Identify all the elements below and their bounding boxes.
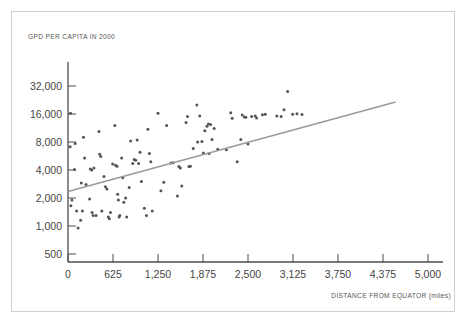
data-point [209, 123, 212, 126]
data-point [180, 184, 183, 187]
data-point [124, 197, 127, 200]
data-point [75, 209, 78, 212]
data-point [95, 214, 98, 217]
data-point [229, 111, 232, 114]
y-tick-label: 2,000 [36, 192, 62, 204]
data-point [213, 127, 216, 130]
data-point [239, 138, 242, 141]
data-point [275, 115, 278, 118]
trend-line [68, 102, 396, 191]
data-point [162, 181, 165, 184]
data-point [186, 115, 189, 118]
data-point [128, 186, 131, 189]
data-point [82, 136, 85, 139]
x-tick-label: 3,750 [325, 268, 351, 280]
data-point [115, 165, 118, 168]
data-point [122, 201, 125, 204]
data-point [192, 147, 195, 150]
data-point [134, 159, 137, 162]
data-point [301, 113, 304, 116]
y-axis-ticks: 5001,0002,0004,0008,00016,00032,000 [30, 80, 76, 260]
data-point [85, 183, 88, 186]
data-point [140, 180, 143, 183]
data-point [80, 181, 83, 184]
data-point [196, 141, 199, 144]
data-point [211, 138, 214, 141]
data-point [203, 129, 206, 132]
data-point [195, 103, 198, 106]
data-point [125, 215, 128, 218]
y-tick-label: 32,000 [30, 80, 62, 92]
data-point [176, 195, 179, 198]
x-tick-label: 4,375 [370, 268, 396, 280]
data-point [146, 128, 149, 131]
y-tick-label: 500 [44, 248, 62, 260]
data-point [236, 160, 239, 163]
data-point [198, 115, 201, 118]
data-point [116, 193, 119, 196]
data-point [97, 130, 100, 133]
data-point [185, 121, 188, 124]
data-point [231, 117, 234, 120]
y-axis-title: GPD PER CAPITA IN 2000 [28, 33, 115, 40]
data-point [295, 112, 298, 115]
data-point [113, 124, 116, 127]
scatter-plot: GPD PER CAPITA IN 2000 DISTANCE FROM EQU… [0, 0, 467, 326]
data-point [137, 162, 140, 165]
data-point [151, 209, 154, 212]
data-point [74, 142, 77, 145]
data-point [145, 214, 148, 217]
x-tick-label: 1,250 [145, 268, 171, 280]
x-tick-label: 625 [104, 268, 122, 280]
data-point [69, 112, 72, 115]
x-tick-label: 5,000 [415, 268, 441, 280]
data-point [69, 145, 72, 148]
x-axis-title: DISTANCE FROM EQUATOR (miles) [331, 292, 451, 300]
data-point [165, 124, 168, 127]
data-point [120, 156, 123, 159]
data-point [157, 112, 160, 115]
data-point [88, 198, 91, 201]
data-point [73, 168, 76, 171]
data-point [79, 219, 82, 222]
data-point [189, 165, 192, 168]
data-point [99, 155, 102, 158]
y-tick-label: 8,000 [36, 136, 62, 148]
x-tick-label: 1,875 [190, 268, 216, 280]
data-point [108, 217, 111, 220]
y-tick-label: 4,000 [36, 164, 62, 176]
data-point [109, 211, 112, 214]
chart-figure: GPD PER CAPITA IN 2000 DISTANCE FROM EQU… [0, 0, 467, 326]
data-point [69, 204, 72, 207]
data-point [118, 214, 121, 217]
x-tick-label: 0 [65, 268, 71, 280]
x-tick-label: 3,125 [280, 268, 306, 280]
data-point [244, 116, 247, 119]
data-point [250, 115, 253, 118]
data-point [131, 162, 134, 165]
data-point [105, 187, 108, 190]
data-point [111, 162, 114, 165]
data-point [159, 189, 162, 192]
data-point [83, 156, 86, 159]
data-point [103, 175, 106, 178]
data-point [255, 116, 258, 119]
y-tick-label: 1,000 [36, 220, 62, 232]
data-point [117, 199, 120, 202]
data-point [129, 140, 132, 143]
data-point [77, 227, 80, 230]
data-point [136, 139, 139, 142]
data-point [143, 207, 146, 210]
data-point [70, 199, 73, 202]
data-point [286, 90, 289, 93]
y-tick-label: 16,000 [30, 108, 62, 120]
data-point [264, 113, 267, 116]
data-point [139, 151, 142, 154]
x-tick-label: 2,500 [235, 268, 261, 280]
data-point [179, 167, 182, 170]
data-point [81, 209, 84, 212]
data-point [283, 108, 286, 111]
data-point [200, 140, 203, 143]
data-point [92, 214, 95, 217]
data-point [280, 115, 283, 118]
